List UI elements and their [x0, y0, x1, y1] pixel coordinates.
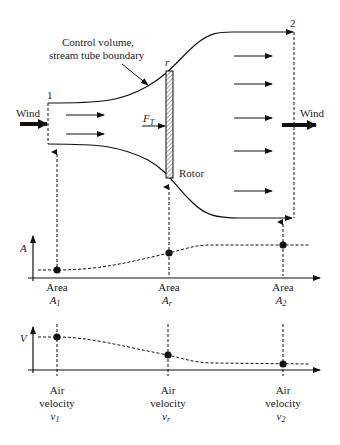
- station-1-label: 1: [47, 89, 53, 101]
- upstream-flow-arrows: [66, 115, 104, 134]
- svg-text:vr: vr: [162, 410, 171, 424]
- velocity-point-r: [164, 351, 171, 358]
- wind-in-label: Wind: [16, 107, 40, 119]
- station-2-label: 2: [290, 17, 296, 29]
- rotor-label: Rotor: [179, 167, 204, 179]
- wind-out-label: Wind: [300, 107, 324, 119]
- svg-text:v1: v1: [51, 410, 60, 424]
- rotor: [166, 71, 173, 178]
- callout-line-2: stream tube boundary: [49, 49, 145, 61]
- area-axis-label: A: [19, 242, 27, 254]
- svg-text:velocity: velocity: [150, 397, 186, 409]
- area-curve: [38, 245, 310, 270]
- area-point-1: [53, 266, 60, 273]
- area-point-2: [279, 241, 286, 248]
- callout-line-1: Control volume,: [62, 36, 134, 48]
- thrust-label: FT: [142, 112, 155, 127]
- velocity-curve: [38, 337, 310, 364]
- area-r-label: Area: [158, 281, 179, 293]
- area-point-r: [165, 249, 172, 256]
- downstream-flow-arrows: [234, 56, 272, 191]
- svg-text:Ar: Ar: [161, 294, 173, 308]
- stream-tube-diagram: 1 r 2 Control volume, stream tube bounda…: [0, 0, 340, 445]
- velocity-axis-label: V: [20, 332, 28, 344]
- area-plot: A Area A1 Area Ar Area A2: [19, 236, 320, 308]
- velocity-plot: V Air velocity v1 Air velocity vr Air ve…: [20, 324, 320, 424]
- svg-text:v2: v2: [277, 410, 286, 424]
- area-1-label: Area: [46, 281, 67, 293]
- area-2-label: Area: [272, 281, 293, 293]
- svg-text:A1: A1: [49, 294, 61, 308]
- velocity-point-2: [279, 360, 286, 367]
- svg-text:velocity: velocity: [265, 397, 301, 409]
- station-r-label: r: [165, 56, 170, 68]
- velocity-2-label: Air: [276, 384, 291, 396]
- svg-text:A2: A2: [275, 294, 287, 308]
- velocity-1-label: Air: [50, 384, 65, 396]
- callout-arrow: [122, 64, 148, 85]
- velocity-point-1: [53, 333, 60, 340]
- svg-text:velocity: velocity: [39, 397, 75, 409]
- velocity-r-label: Air: [161, 384, 176, 396]
